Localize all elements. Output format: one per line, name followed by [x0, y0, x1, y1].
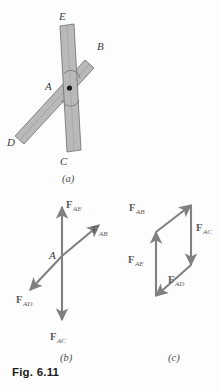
- label-FAE-main: F: [66, 199, 72, 210]
- pin-center-dot: [67, 85, 72, 90]
- label-point-B: B: [97, 40, 104, 52]
- label-c-FAC-sub: AC: [202, 228, 212, 236]
- label-c-FAC-main: F: [196, 222, 202, 233]
- label-FAC: F AC: [50, 331, 66, 345]
- label-c-FAD-main: F: [168, 274, 174, 285]
- label-FAB: F AB: [92, 224, 108, 238]
- label-FAD-sub: AD: [22, 300, 32, 308]
- label-FAD-main: F: [16, 294, 22, 305]
- panel-c-diagram: F AB F AC F AD F AE (c): [128, 202, 212, 364]
- panel-c-label: (c): [168, 352, 180, 364]
- label-c-FAE-sub: AE: [134, 260, 144, 268]
- label-c-FAC: F AC: [196, 222, 212, 236]
- label-point-E: E: [58, 10, 66, 22]
- label-c-FAB-sub: AB: [135, 208, 145, 216]
- label-point-C: C: [60, 155, 68, 167]
- member-DB: [15, 60, 94, 144]
- figure-caption: Fig. 6.11: [12, 366, 59, 378]
- label-c-FAD-sub: AD: [174, 280, 184, 288]
- figure-container: E B A D C (a) A F AE F: [0, 0, 221, 391]
- label-c-FAB: F AB: [129, 202, 145, 216]
- vector-FAD: [30, 256, 62, 290]
- label-FAB-sub: AB: [98, 230, 108, 238]
- panel-b-label: (b): [60, 352, 73, 364]
- figure-svg: E B A D C (a) A F AE F: [0, 0, 221, 391]
- panel-b-diagram: A F AE F AB F AD F AC (b): [16, 199, 108, 364]
- label-FAC-main: F: [50, 331, 56, 342]
- label-c-FAB-main: F: [129, 202, 135, 213]
- label-c-FAE-main: F: [128, 254, 134, 265]
- label-FAB-main: F: [92, 224, 98, 235]
- label-point-D: D: [6, 136, 15, 148]
- panel-b-origin-label: A: [48, 249, 56, 261]
- label-c-FAD: F AD: [168, 274, 184, 288]
- label-FAC-sub: AC: [56, 337, 66, 345]
- label-c-FAE: F AE: [128, 254, 144, 268]
- panel-a-diagram: E B A D C (a): [6, 10, 104, 185]
- label-FAE-sub: AE: [72, 205, 82, 213]
- vector-c-FAB: [156, 205, 191, 232]
- label-FAD: F AD: [16, 294, 32, 308]
- panel-a-label: (a): [62, 173, 75, 185]
- label-point-A: A: [44, 80, 52, 92]
- label-FAE: F AE: [66, 199, 82, 213]
